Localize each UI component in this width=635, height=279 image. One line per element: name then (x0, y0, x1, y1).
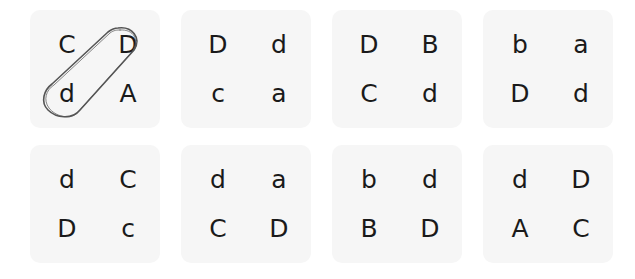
letter-bottom-left: C (203, 216, 233, 241)
letter-card-1[interactable]: C D d A (30, 10, 160, 128)
letter-top-right: B (415, 32, 445, 57)
letter-top-right: d (264, 32, 294, 57)
letter-bottom-right: C (566, 216, 596, 241)
letter-top-left: D (354, 32, 384, 57)
letter-card-7[interactable]: b d B D (332, 145, 462, 263)
letter-bottom-left: B (354, 216, 384, 241)
letter-card-4[interactable]: b a D d (483, 10, 613, 128)
letter-card-3[interactable]: D B C d (332, 10, 462, 128)
letter-top-left: d (203, 167, 233, 192)
letter-top-left: b (354, 167, 384, 192)
letter-bottom-left: d (52, 81, 82, 106)
letter-top-right: a (566, 32, 596, 57)
letter-top-left: b (505, 32, 535, 57)
letter-bottom-right: c (113, 216, 143, 241)
letter-card-2[interactable]: D d c a (181, 10, 311, 128)
letter-card-5[interactable]: d C D c (30, 145, 160, 263)
letter-top-right: D (113, 32, 143, 57)
letter-top-left: C (52, 32, 82, 57)
letter-bottom-right: d (566, 81, 596, 106)
letter-bottom-right: A (113, 81, 143, 106)
letter-bottom-right: D (415, 216, 445, 241)
circled-pair-loop-icon (30, 10, 160, 128)
letter-bottom-right: D (264, 216, 294, 241)
letter-top-left: D (203, 32, 233, 57)
letter-bottom-right: d (415, 81, 445, 106)
letter-top-left: d (505, 167, 535, 192)
letter-top-right: C (113, 167, 143, 192)
letter-bottom-left: A (505, 216, 535, 241)
letter-card-8[interactable]: d D A C (483, 145, 613, 263)
letter-top-left: d (52, 167, 82, 192)
letter-bottom-left: c (203, 81, 233, 106)
letter-top-right: d (415, 167, 445, 192)
letter-bottom-left: D (505, 81, 535, 106)
letter-bottom-right: a (264, 81, 294, 106)
letter-bottom-left: D (52, 216, 82, 241)
letter-bottom-left: C (354, 81, 384, 106)
letter-top-right: D (566, 167, 596, 192)
letter-card-6[interactable]: d a C D (181, 145, 311, 263)
letter-top-right: a (264, 167, 294, 192)
